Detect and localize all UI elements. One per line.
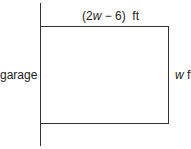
length-label: (2w − 6) ft (82, 9, 139, 23)
length-label-prefix: (2 (82, 9, 93, 23)
length-label-suffix: − 6) ft (101, 9, 139, 23)
garage-wall-line (40, 3, 41, 146)
width-label: w ft (175, 68, 191, 82)
width-label-suffix: ft (184, 68, 191, 82)
width-label-variable: w (175, 68, 184, 82)
rectangle-right-edge (168, 26, 169, 124)
rectangle-top-edge (40, 26, 169, 27)
rectangle-bottom-edge (40, 123, 169, 124)
garage-label: garage (0, 68, 37, 82)
